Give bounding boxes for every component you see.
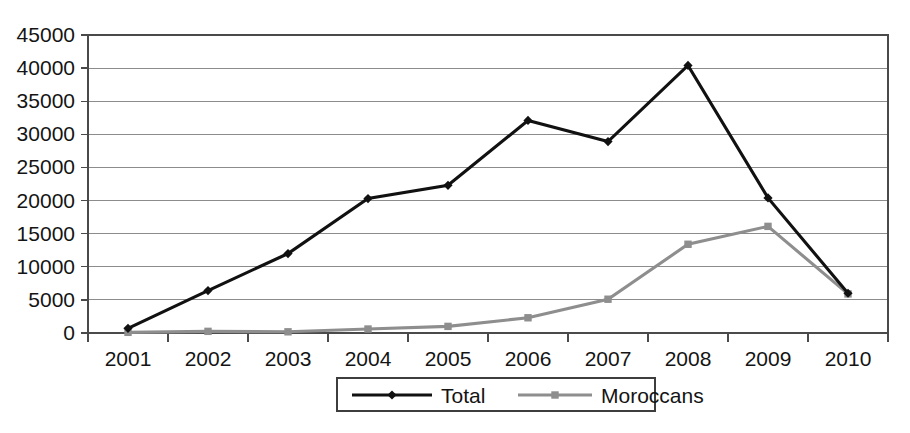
data-point — [684, 241, 691, 248]
x-axis-tick-label: 2006 — [505, 347, 552, 370]
x-axis-tick-label: 2010 — [825, 347, 872, 370]
y-axis-tick-label: 35000 — [17, 89, 75, 112]
y-axis-tick-label: 25000 — [17, 155, 75, 178]
y-axis-tick-label: 30000 — [17, 122, 75, 145]
data-point — [524, 314, 531, 321]
x-axis-tick-label: 2004 — [345, 347, 392, 370]
legend-label: Total — [441, 384, 485, 407]
x-axis-tick-label: 2002 — [185, 347, 232, 370]
chart-canvas: 0500010000150002000025000300003500040000… — [0, 0, 910, 433]
line-chart: 0500010000150002000025000300003500040000… — [0, 0, 910, 433]
x-axis-tick-label: 2005 — [425, 347, 472, 370]
x-axis-tick-label: 2008 — [665, 347, 712, 370]
data-point — [604, 296, 611, 303]
x-axis-tick-label: 2003 — [265, 347, 312, 370]
y-axis-tick-label: 45000 — [17, 23, 75, 46]
y-axis-tick-label: 40000 — [17, 56, 75, 79]
x-axis-tick-label: 2009 — [745, 347, 792, 370]
y-axis-tick-label: 20000 — [17, 189, 75, 212]
y-axis-tick-label: 0 — [63, 321, 75, 344]
data-point — [444, 323, 451, 330]
x-axis-tick-label: 2007 — [585, 347, 632, 370]
data-point — [364, 325, 371, 332]
y-axis-tick-label: 5000 — [28, 288, 75, 311]
data-point — [284, 328, 291, 335]
data-point — [204, 328, 211, 335]
data-point — [764, 223, 771, 230]
legend-swatch-marker — [551, 391, 558, 398]
legend-label: Moroccans — [601, 384, 704, 407]
y-axis-tick-label: 10000 — [17, 255, 75, 278]
y-axis-tick-label: 15000 — [17, 222, 75, 245]
x-axis-tick-label: 2001 — [105, 347, 152, 370]
chart-legend: TotalMoroccans — [337, 378, 704, 411]
